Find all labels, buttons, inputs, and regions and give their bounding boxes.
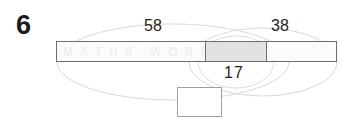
label-overlap: 17 [224, 65, 244, 81]
right-group-ellipse [189, 28, 337, 96]
question-number: 6 [16, 12, 31, 39]
bar-segment-right [267, 42, 336, 61]
bar-model: MATHS WORKSHEET [56, 41, 337, 62]
answer-box[interactable] [177, 87, 222, 117]
bar-segment-overlap [205, 42, 267, 61]
label-left-total: 58 [144, 18, 162, 34]
worksheet-problem: 6 MATHS WORKSHEET 58 38 17 [0, 0, 361, 127]
bar-segment-left: MATHS WORKSHEET [57, 42, 205, 61]
left-group-ellipse [57, 24, 289, 100]
label-right-total: 38 [271, 18, 289, 34]
